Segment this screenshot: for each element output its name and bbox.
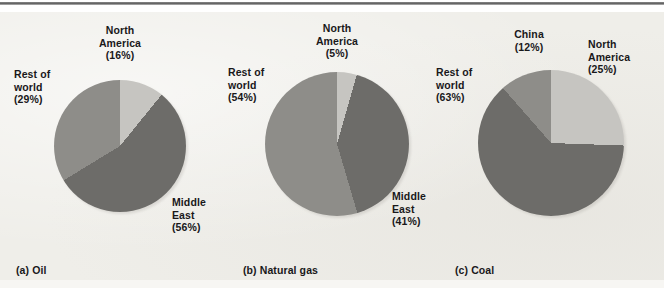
pie-label-oil-middle-east: Middle East (56%)	[172, 196, 252, 234]
pie-label-coal-rest-of-world: Rest of world (63%)	[436, 66, 514, 104]
pie-label-oil-rest-of-world: Rest of world (29%)	[14, 68, 92, 106]
pie-label-coal-north-america: North America (25%)	[588, 38, 664, 76]
pie-caption-coal: (c) Coal	[455, 264, 494, 276]
pie-caption-natural-gas: (b) Natural gas	[243, 264, 318, 276]
top-divider-rule	[0, 2, 664, 5]
pie-label-gas-middle-east: Middle East (41%)	[392, 190, 472, 228]
pie-label-coal-china: China (12%)	[492, 28, 566, 53]
figure-three-pie-charts: North America (16%) Rest of world (29%) …	[0, 0, 664, 288]
pie-label-oil-north-america: North America (16%)	[62, 24, 178, 62]
pie-label-gas-rest-of-world: Rest of world (54%)	[228, 66, 306, 104]
pie-label-gas-north-america: North America (5%)	[279, 22, 395, 60]
pie-caption-oil: (a) Oil	[16, 264, 46, 276]
bottom-margin-strip	[0, 280, 664, 288]
